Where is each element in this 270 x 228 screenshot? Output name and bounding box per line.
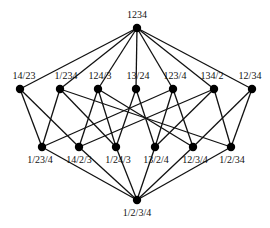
node-label: 12/3/4 (182, 154, 208, 165)
node-label: 13/2/4 (143, 154, 169, 165)
node-label: 1/2/34 (219, 154, 245, 165)
node (56, 85, 64, 93)
node-label: 134/2 (201, 70, 224, 81)
node (132, 85, 140, 93)
node-label: 1/23/4 (27, 154, 53, 165)
node (94, 85, 102, 93)
node-label: 14/23 (13, 70, 36, 81)
node (169, 85, 177, 93)
node-label: 1234 (127, 9, 147, 20)
edge (231, 89, 252, 147)
edge (173, 89, 193, 147)
node-label: 12/34 (239, 70, 262, 81)
node (112, 143, 120, 151)
edge (20, 28, 137, 89)
node (75, 143, 83, 151)
node (151, 143, 159, 151)
edge (214, 89, 231, 147)
edge (42, 89, 60, 147)
node (16, 85, 24, 93)
node-label: 1/2/3/4 (123, 207, 151, 218)
node-label: 1/234 (55, 70, 78, 81)
node-label: 124/3 (89, 70, 112, 81)
node (133, 24, 141, 32)
node-label: 14/2/3 (66, 154, 92, 165)
edge (20, 89, 79, 147)
node (133, 196, 141, 204)
node (189, 143, 197, 151)
node (38, 143, 46, 151)
edges (20, 28, 252, 200)
node (210, 85, 218, 93)
node (248, 85, 256, 93)
node-label: 13/24 (127, 70, 150, 81)
edge (116, 89, 136, 147)
edge (20, 89, 42, 147)
partition-lattice-diagram: 123414/231/234124/313/24123/4134/212/341… (0, 0, 270, 228)
node-label: 123/4 (164, 70, 187, 81)
node (227, 143, 235, 151)
node-label: 1/24/3 (105, 154, 131, 165)
